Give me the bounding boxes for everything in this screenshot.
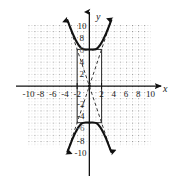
ytick-label: -8 [77,136,85,146]
xtick-label: -4 [61,89,69,99]
ytick-label: -6 [77,123,85,133]
xtick-label: -10 [22,89,34,99]
origin-point [88,85,91,88]
xtick-label: 8 [136,89,141,99]
graph-figure: -10 -8 -6 -4 -2 2 4 6 8 10 10 8 6 4 2 -2… [0,0,179,182]
x-axis-label: x [162,83,168,94]
xtick-label: 10 [146,89,156,99]
ytick-label: 8 [80,33,85,43]
xtick-label: -2 [73,89,81,99]
coordinate-plane-svg: -10 -8 -6 -4 -2 2 4 6 8 10 10 8 6 4 2 -2… [0,0,179,182]
ytick-label: 4 [80,57,85,67]
xtick-label: -8 [37,89,45,99]
ytick-label: 2 [80,69,85,79]
xtick-label: 4 [112,89,117,99]
ytick-label: 6 [80,45,85,55]
xtick-label: -6 [49,89,57,99]
ytick-label: 10 [78,21,88,31]
ytick-label: -4 [77,111,85,121]
y-axis-label: y [95,11,101,22]
ytick-label: -2 [77,99,85,109]
xtick-label: 2 [99,89,104,99]
xtick-label: 6 [124,89,129,99]
ytick-label: -10 [75,148,87,158]
